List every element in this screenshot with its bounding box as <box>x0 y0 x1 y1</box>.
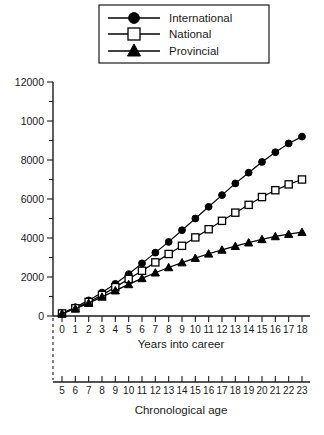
x-tick-label-age-19: 19 <box>243 385 255 396</box>
filled-circle-icon <box>285 140 292 147</box>
filled-circle-icon <box>139 260 146 267</box>
x-tick-label-age-13: 13 <box>163 385 175 396</box>
filled-triangle-icon <box>165 263 173 270</box>
filled-circle-icon <box>179 227 186 234</box>
open-square-icon <box>272 187 279 194</box>
x-tick-label-career-3: 3 <box>99 324 105 335</box>
y-tick-label-0: 0 <box>38 310 44 322</box>
filled-circle-icon <box>232 180 239 187</box>
filled-triangle-icon <box>151 269 159 276</box>
x-tick-label-career-10: 10 <box>190 324 202 335</box>
filled-circle-icon <box>129 13 140 24</box>
y-tick-label-8000: 8000 <box>21 154 45 166</box>
filled-circle-icon <box>165 239 172 246</box>
x-tick-label-age-10: 10 <box>123 385 135 396</box>
x-tick-label-career-15: 15 <box>256 324 268 335</box>
filled-circle-icon <box>259 159 266 166</box>
open-square-icon <box>232 209 239 216</box>
x-tick-label-age-14: 14 <box>176 385 188 396</box>
x-tick-label-age-20: 20 <box>256 385 268 396</box>
x-tick-label-age-9: 9 <box>113 385 119 396</box>
open-square-icon <box>152 259 159 266</box>
x-tick-label-career-11: 11 <box>203 324 214 335</box>
x-tick-label-age-5: 5 <box>59 385 65 396</box>
x-tick-label-career-6: 6 <box>139 324 145 335</box>
filled-triangle-icon <box>298 228 306 235</box>
filled-circle-icon <box>219 192 226 199</box>
open-square-icon <box>298 176 305 183</box>
x-tick-label-career-8: 8 <box>166 324 172 335</box>
x-tick-label-age-12: 12 <box>150 385 162 396</box>
y-tick-label-6000: 6000 <box>21 193 45 205</box>
series-line-international <box>62 137 302 313</box>
filled-circle-icon <box>245 169 252 176</box>
x-tick-label-age-6: 6 <box>73 385 79 396</box>
open-square-icon <box>178 242 185 249</box>
open-square-icon <box>285 181 292 188</box>
x-tick-label-career-17: 17 <box>283 324 295 335</box>
open-square-icon <box>205 226 212 233</box>
filled-triangle-icon <box>138 274 146 281</box>
x-tick-label-career-18: 18 <box>296 324 308 335</box>
y-tick-label-4000: 4000 <box>21 232 45 244</box>
series-layer <box>58 133 306 317</box>
x-tick-label-age-18: 18 <box>230 385 242 396</box>
y-tick-label-10000: 1000 <box>21 115 45 127</box>
x-tick-label-career-2: 2 <box>86 324 92 335</box>
x-axis-labels-age: 567891011121314151617181920212223 <box>59 385 308 396</box>
x-tick-label-age-11: 11 <box>137 385 148 396</box>
chart-legend: International National Provincial <box>99 5 269 63</box>
open-square-icon <box>258 193 265 200</box>
open-square-icon <box>128 28 140 40</box>
filled-circle-icon <box>152 249 159 256</box>
chart-svg: International National Provincial <box>0 0 324 435</box>
legend-label-provincial: Provincial <box>169 45 219 57</box>
x-tick-label-age-7: 7 <box>86 385 92 396</box>
x-tick-label-age-22: 22 <box>283 385 295 396</box>
x-axis-ticks-career <box>62 316 302 322</box>
filled-circle-icon <box>299 133 306 140</box>
x-tick-label-career-14: 14 <box>243 324 255 335</box>
x-tick-label-career-5: 5 <box>126 324 132 335</box>
x-tick-label-career-7: 7 <box>153 324 159 335</box>
x-tick-label-career-16: 16 <box>270 324 282 335</box>
x-axis-labels-career: 0123456789101112131415161718 <box>59 324 308 335</box>
series-international <box>59 133 306 316</box>
x-tick-label-age-17: 17 <box>216 385 228 396</box>
x-axis-title-career: Years into career <box>138 338 225 350</box>
x-tick-label-career-4: 4 <box>113 324 119 335</box>
x-tick-label-career-13: 13 <box>230 324 242 335</box>
x-tick-label-age-8: 8 <box>99 385 105 396</box>
y-axis-ticks: 0 2000 4000 6000 8000 1000 12000 <box>15 76 53 322</box>
x-tick-label-age-21: 21 <box>270 385 282 396</box>
filled-circle-icon <box>192 215 199 222</box>
x-tick-label-career-12: 12 <box>216 324 228 335</box>
x-tick-label-career-0: 0 <box>59 324 65 335</box>
filled-circle-icon <box>205 203 212 210</box>
x-axis-ticks-age <box>62 376 302 382</box>
open-square-icon <box>245 201 252 208</box>
x-axis-title-age: Chronological age <box>135 404 228 416</box>
series-provincial <box>58 228 306 317</box>
open-square-icon <box>165 250 172 257</box>
chart-figure: International National Provincial <box>0 0 324 435</box>
x-tick-label-age-15: 15 <box>190 385 202 396</box>
filled-circle-icon <box>272 149 279 156</box>
x-tick-label-career-9: 9 <box>179 324 185 335</box>
open-square-icon <box>192 234 199 241</box>
x-tick-label-age-16: 16 <box>203 385 215 396</box>
x-tick-label-career-1: 1 <box>73 324 79 335</box>
legend-label-national: National <box>169 28 211 40</box>
y-tick-label-2000: 2000 <box>21 271 45 283</box>
open-square-icon <box>218 217 225 224</box>
x-tick-label-age-23: 23 <box>296 385 308 396</box>
legend-label-international: International <box>169 12 232 24</box>
y-tick-label-12000: 12000 <box>15 76 44 88</box>
